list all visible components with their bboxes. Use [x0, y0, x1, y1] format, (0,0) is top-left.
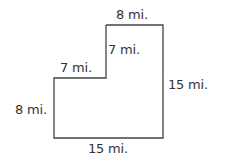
- label-left: 8 mi.: [15, 103, 47, 116]
- label-top: 8 mi.: [116, 8, 148, 21]
- label-inner-horizontal: 7 mi.: [60, 61, 92, 74]
- label-right: 15 mi.: [168, 78, 208, 91]
- label-bottom: 15 mi.: [88, 142, 128, 155]
- label-inner-vertical: 7 mi.: [108, 43, 140, 56]
